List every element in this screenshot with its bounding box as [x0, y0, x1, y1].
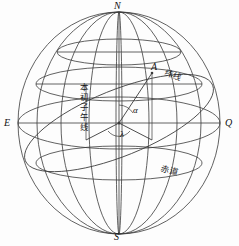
label-angle-lambda: λ — [120, 129, 124, 139]
label-point-a: A — [151, 61, 157, 72]
label-right-point: Q — [225, 117, 232, 128]
label-angle-alpha: α — [133, 105, 138, 115]
label-north-pole: N — [114, 0, 121, 11]
sphere-center-point — [118, 122, 121, 125]
label-prime-meridian: 本初子午线 — [78, 83, 88, 133]
sphere-drawing — [0, 0, 239, 246]
label-east-point: E — [4, 117, 10, 128]
label-south-pole: S — [114, 231, 119, 242]
diagram-canvas: N S E Q A α λ 纬线 本初子午线 赤道 — [0, 0, 239, 246]
point-a-marker — [151, 72, 154, 75]
left-ray — [86, 123, 119, 140]
